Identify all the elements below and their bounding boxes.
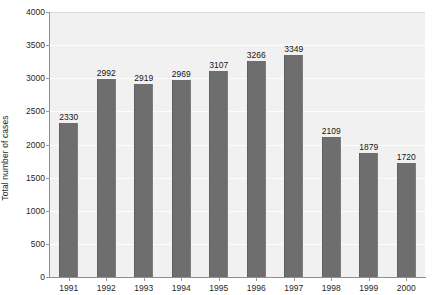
bar-value-label: 3349 [284, 44, 303, 54]
y-axis-tick-mark [46, 211, 50, 212]
bar-1996[interactable] [247, 61, 266, 277]
x-axis-tick-mark [369, 278, 370, 281]
x-axis-tick-mark [106, 278, 107, 281]
y-axis-tick-mark [46, 145, 50, 146]
bar-group[interactable]: 2992 [97, 68, 116, 277]
bar-value-label: 3266 [247, 50, 266, 60]
bar-group[interactable]: 2109 [322, 126, 341, 277]
y-axis-tick-label: 4000 [14, 8, 45, 17]
x-axis-tick-label-1992: 1992 [97, 283, 116, 293]
y-axis-tick-label: 3000 [14, 74, 45, 83]
bar-value-label: 2969 [172, 69, 191, 79]
x-axis-tick-mark [181, 278, 182, 281]
y-axis-title-text: Total number of cases [0, 98, 11, 218]
y-axis-tick-label: 3500 [14, 41, 45, 50]
bar-group[interactable]: 3349 [284, 44, 303, 277]
y-axis-tick-mark [46, 277, 50, 278]
bar-1992[interactable] [97, 79, 116, 277]
x-axis-tick-label-1993: 1993 [134, 283, 153, 293]
x-axis-tick-label-1999: 1999 [359, 283, 378, 293]
y-axis-tick-mark [46, 12, 50, 13]
x-axis-tick-label-1994: 1994 [172, 283, 191, 293]
bar-1998[interactable] [322, 137, 341, 277]
y-axis-tick-mark [46, 178, 50, 179]
bar-group[interactable]: 3107 [209, 60, 228, 277]
y-axis-tick-label: 1000 [14, 206, 45, 215]
plot-top-border [50, 12, 425, 13]
bar-value-label: 1720 [397, 152, 416, 162]
bar-1991[interactable] [59, 123, 78, 277]
bar-1995[interactable] [209, 71, 228, 277]
bar-group[interactable]: 2919 [134, 73, 153, 277]
y-axis-tick-mark [46, 78, 50, 79]
bar-group[interactable]: 1879 [359, 142, 378, 277]
bar-value-label: 2919 [134, 73, 153, 83]
bar-value-label: 3107 [209, 60, 228, 70]
bar-group[interactable]: 1720 [397, 152, 416, 277]
bar-group[interactable]: 3266 [247, 50, 266, 277]
y-axis-tick-mark [46, 244, 50, 245]
bar-group[interactable]: 2330 [59, 112, 78, 277]
y-axis-title: Total number of cases [0, 100, 11, 220]
gridline [50, 45, 425, 46]
y-axis-tick-label: 1500 [14, 173, 45, 182]
bar-1999[interactable] [359, 153, 378, 277]
x-axis-tick-mark [331, 278, 332, 281]
x-axis-tick-mark [256, 278, 257, 281]
y-axis-tick-label: 2000 [14, 140, 45, 149]
x-axis-tick-label-1997: 1997 [284, 283, 303, 293]
y-axis-tick-label: 500 [14, 239, 45, 248]
x-axis-tick-label-2000: 2000 [397, 283, 416, 293]
plot-area: 2330299229192969310732663349210918791720 [50, 12, 425, 277]
bar-group[interactable]: 2969 [172, 69, 191, 277]
x-axis-tick-label-1995: 1995 [209, 283, 228, 293]
bar-value-label: 2109 [322, 126, 341, 136]
x-axis-tick-mark [294, 278, 295, 281]
bar-1993[interactable] [134, 84, 153, 277]
x-axis-tick-mark [144, 278, 145, 281]
y-axis-tick-labels: 05001000150020002500300035004000 [14, 0, 45, 295]
bar-value-label: 2330 [59, 112, 78, 122]
bar-1994[interactable] [172, 80, 191, 277]
x-axis-tick-mark [219, 278, 220, 281]
y-axis-tick-mark [46, 111, 50, 112]
bar-1997[interactable] [284, 55, 303, 277]
bar-2000[interactable] [397, 163, 416, 277]
x-axis-tick-mark [406, 278, 407, 281]
x-axis-tick-label-1996: 1996 [247, 283, 266, 293]
bar-chart-figure: Total number of cases 050010001500200025… [0, 0, 433, 295]
y-axis-tick-label: 0 [14, 273, 45, 282]
x-axis-tick-label-1998: 1998 [322, 283, 341, 293]
y-axis-tick-mark [46, 45, 50, 46]
bar-value-label: 2992 [97, 68, 116, 78]
y-axis-tick-label: 2500 [14, 107, 45, 116]
x-axis-tick-mark [69, 278, 70, 281]
bar-value-label: 1879 [359, 142, 378, 152]
x-axis-tick-label-1991: 1991 [59, 283, 78, 293]
